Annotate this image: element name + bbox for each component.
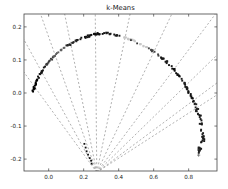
data-point xyxy=(90,34,92,36)
data-point xyxy=(61,49,63,51)
y-tick-label: -0.1 xyxy=(11,123,22,129)
data-point xyxy=(65,44,67,46)
data-point xyxy=(200,141,202,143)
data-point xyxy=(145,46,147,48)
data-point xyxy=(148,47,150,49)
data-point xyxy=(116,34,118,36)
data-point xyxy=(184,84,186,86)
data-point xyxy=(136,42,138,44)
cluster-boundary-line xyxy=(95,0,97,172)
data-point xyxy=(199,116,201,118)
cluster-boundary-line xyxy=(97,0,228,172)
cluster-boundary-line xyxy=(14,0,96,172)
data-point xyxy=(130,39,132,41)
x-tick-label: 0.6 xyxy=(149,174,158,180)
data-point xyxy=(50,58,52,60)
data-point xyxy=(199,123,201,125)
data-point xyxy=(171,65,173,67)
data-point xyxy=(142,45,144,47)
data-point xyxy=(46,63,48,65)
data-point xyxy=(203,138,205,140)
data-point xyxy=(63,47,65,49)
data-point xyxy=(127,38,129,40)
y-tick-label: -0.2 xyxy=(11,156,22,162)
data-point xyxy=(171,68,173,70)
data-point xyxy=(33,86,35,88)
data-point xyxy=(202,132,204,134)
data-point xyxy=(174,70,176,72)
data-point xyxy=(192,101,194,103)
data-point xyxy=(173,68,175,70)
data-point xyxy=(181,80,183,82)
data-point xyxy=(140,43,142,45)
data-point xyxy=(203,135,205,137)
data-point xyxy=(44,66,46,68)
x-tick-label: 0.0 xyxy=(44,174,53,180)
data-point xyxy=(91,163,93,165)
data-point xyxy=(165,61,167,63)
cluster-boundary-line xyxy=(97,0,207,172)
data-point xyxy=(38,77,40,79)
data-point xyxy=(88,36,90,38)
data-point xyxy=(69,44,71,46)
x-tick-labels: 0.00.20.40.60.8 xyxy=(44,174,193,180)
cluster-boundary-line xyxy=(97,0,228,172)
data-point xyxy=(191,97,193,99)
data-point xyxy=(178,75,180,77)
data-point xyxy=(77,39,79,41)
data-point xyxy=(80,37,82,39)
y-tick-label: 0.2 xyxy=(13,24,22,30)
data-point xyxy=(198,149,200,151)
data-point xyxy=(39,73,41,75)
cluster-boundary-line xyxy=(97,0,146,172)
data-point xyxy=(168,64,170,66)
data-point xyxy=(84,36,86,38)
x-tick-label: 0.2 xyxy=(79,174,88,180)
data-point xyxy=(90,160,92,162)
data-point xyxy=(150,49,152,51)
data-point xyxy=(87,154,89,156)
data-point xyxy=(86,150,88,152)
data-point xyxy=(93,33,95,35)
data-point xyxy=(200,118,202,120)
data-point xyxy=(197,108,199,110)
y-tick-label: 0.1 xyxy=(13,57,22,63)
data-point xyxy=(103,32,105,34)
data-point xyxy=(154,51,156,53)
data-point xyxy=(96,34,98,36)
data-point xyxy=(53,56,55,58)
data-point xyxy=(184,82,186,84)
data-point xyxy=(190,93,192,95)
data-point xyxy=(186,88,188,90)
data-point xyxy=(198,148,200,150)
data-point xyxy=(123,37,125,39)
data-point xyxy=(55,53,57,55)
data-point xyxy=(181,78,183,80)
data-point xyxy=(89,157,91,159)
data-point xyxy=(195,106,197,108)
y-tick-label: 0.0 xyxy=(13,90,22,96)
data-point xyxy=(202,139,204,141)
cluster-boundary-line xyxy=(97,0,228,172)
data-point xyxy=(47,62,49,64)
data-point xyxy=(32,90,34,92)
data-point xyxy=(57,51,59,53)
data-point xyxy=(109,33,111,35)
data-point xyxy=(186,86,188,88)
cluster-boundary-line xyxy=(50,0,97,172)
x-tick-label: 0.4 xyxy=(114,174,123,180)
scatter-points xyxy=(32,32,206,165)
data-point xyxy=(166,60,168,62)
data-point xyxy=(200,129,202,131)
data-point xyxy=(83,143,85,145)
data-point xyxy=(203,140,205,142)
data-point xyxy=(188,91,190,93)
kmeans-plot: k-Means 0.00.20.40.60.8 0.20.10.0-0.1-0.… xyxy=(0,0,228,189)
plot-title: k-Means xyxy=(106,4,135,12)
data-point xyxy=(49,60,51,62)
data-point xyxy=(35,83,37,85)
data-point xyxy=(195,103,197,105)
data-point xyxy=(198,114,200,116)
data-point xyxy=(98,34,100,36)
data-point xyxy=(157,53,159,55)
